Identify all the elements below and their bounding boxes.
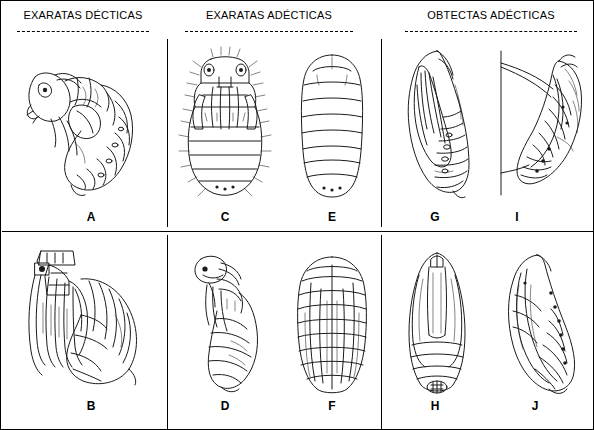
panel-label-a: A [81, 210, 101, 224]
panel-label-h: H [425, 399, 445, 413]
group-heading-exaratas-decticas: EXARATAS DÉCTICAS [9, 9, 157, 21]
panel-label-f: F [322, 399, 342, 413]
panel-label-d: D [215, 399, 235, 413]
panel-label-i: I [507, 210, 527, 224]
drawing-panel-a [15, 47, 163, 203]
drawing-panel-b [15, 243, 165, 393]
group-rule-exaratas-adecticas [185, 31, 353, 32]
divider-column-3-lower [381, 235, 382, 429]
group-heading-exaratas-adecticas: EXARATAS ADÉCTICAS [179, 9, 359, 21]
divider-column-3 [381, 39, 382, 227]
group-rule-obtectas-adecticas [405, 31, 577, 32]
panel-label-b: B [81, 399, 101, 413]
divider-row [2, 231, 594, 232]
drawing-panel-d [181, 249, 271, 395]
group-heading-obtectas-adecticas: OBTECTAS ADÉCTICAS [401, 9, 581, 21]
drawing-panel-c [173, 43, 277, 203]
panel-label-j: J [525, 399, 545, 413]
pupa-types-figure: EXARATAS DÉCTICAS EXARATAS ADÉCTICAS OBT… [0, 0, 594, 430]
group-rule-exaratas-decticas [17, 31, 149, 32]
divider-column-1-lower [167, 235, 168, 429]
drawing-panel-g [391, 45, 479, 203]
drawing-panel-i [487, 45, 591, 203]
drawing-panel-j [491, 249, 587, 397]
drawing-panel-f [289, 253, 375, 395]
panel-label-e: E [322, 210, 342, 224]
panel-label-g: G [425, 210, 445, 224]
divider-column-1 [167, 39, 168, 227]
drawing-panel-h [393, 249, 481, 397]
panel-label-c: C [215, 210, 235, 224]
drawing-panel-e [291, 49, 373, 201]
